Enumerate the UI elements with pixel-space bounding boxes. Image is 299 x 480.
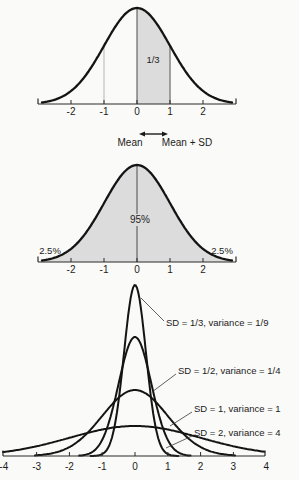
right-tail-percentage-label: 2.5% — [211, 246, 233, 256]
panel3-label-pointer-line — [152, 374, 176, 392]
panel3-curve-sd-1 — [35, 390, 235, 455]
panel2-tick-label: -1 — [100, 264, 109, 275]
panel3-label-pointer-line — [170, 412, 192, 426]
arrow-right-head-icon — [162, 131, 168, 136]
panel3-curve-sd-0.333 — [91, 285, 179, 456]
curve-label-sd-one-third: SD = 1/3, variance = 1/9 — [166, 318, 268, 328]
panel1-tick-label: -2 — [67, 106, 76, 117]
panel3-tick-label: -1 — [98, 461, 107, 472]
mean-annotation-label: Mean — [117, 138, 142, 148]
panel3-tick-label: -2 — [65, 461, 74, 472]
curve-label-sd-two: SD = 2, variance = 4 — [194, 428, 281, 438]
central-area-percentage-label: 95% — [128, 214, 152, 226]
panel3-curve-sd-0.5 — [79, 337, 190, 456]
panel1-tick-label: 0 — [134, 106, 140, 117]
panel2-tick-label: 2 — [200, 264, 206, 275]
panel1-tick-label: 1 — [167, 106, 173, 117]
panel3-tick-label: 0 — [132, 461, 138, 472]
panel2-tick-label: -2 — [67, 264, 76, 275]
curve-label-sd-one-half: SD = 1/2, variance = 1/4 — [178, 366, 280, 376]
panel3-tick-label: 3 — [231, 461, 237, 472]
shaded-area-label: 1/3 — [146, 55, 159, 65]
curve-label-sd-one: SD = 1, variance = 1 — [194, 404, 281, 414]
panel3-tick-label: 4 — [263, 461, 269, 472]
panel3-tick-label: -4 — [0, 461, 9, 472]
panel3-tick-label: 2 — [198, 461, 204, 472]
panel1-tick-label: 2 — [200, 106, 206, 117]
panel1-tick-label: -1 — [100, 106, 109, 117]
normal-distribution-figure: -2-1012-2-1012-4-3-2-101234 1/3 Mean Mea… — [0, 0, 299, 480]
panel3-tick-label: 1 — [165, 461, 171, 472]
mean-plus-sd-annotation-label: Mean + SD — [162, 138, 212, 148]
panel2-tick-label: 0 — [134, 264, 140, 275]
left-tail-percentage-label: 2.5% — [39, 246, 61, 256]
panel2-tick-label: 1 — [167, 264, 173, 275]
arrow-left-head-icon — [139, 131, 145, 136]
panel3-label-pointer-line — [141, 298, 164, 321]
panel3-tick-label: -3 — [32, 461, 41, 472]
